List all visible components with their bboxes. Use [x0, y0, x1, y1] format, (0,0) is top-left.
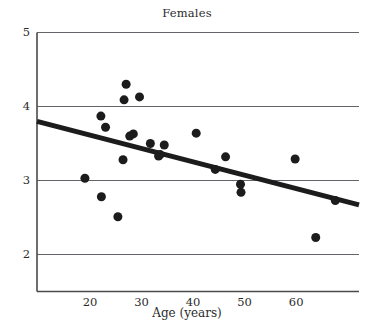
data-point: [192, 129, 201, 138]
data-point: [311, 233, 320, 242]
x-axis-title: Age (years): [0, 306, 374, 320]
data-point: [120, 95, 129, 104]
data-point: [221, 152, 230, 161]
gridlines: [37, 33, 359, 255]
data-point: [160, 140, 169, 149]
data-point: [119, 155, 128, 164]
y-tick-label: 5: [6, 25, 30, 39]
data-point: [113, 212, 122, 221]
data-point: [156, 150, 165, 159]
data-point: [97, 192, 106, 201]
data-point: [96, 112, 105, 121]
y-tick-label: 4: [6, 99, 30, 113]
data-point: [211, 165, 220, 174]
data-point: [237, 188, 246, 197]
data-point: [101, 123, 110, 132]
data-point: [135, 92, 144, 101]
y-tick-label: 3: [6, 173, 30, 187]
data-point: [331, 196, 340, 205]
y-tick-label: 2: [6, 247, 30, 261]
scatter-plot-canvas: [0, 0, 374, 333]
chart-figure: Females 2345 2030405060 Age (years): [0, 0, 374, 333]
data-point: [236, 180, 245, 189]
data-point: [122, 80, 131, 89]
data-point: [146, 139, 155, 148]
data-point: [80, 174, 89, 183]
data-point: [291, 155, 300, 164]
data-points: [80, 80, 339, 242]
data-point: [129, 129, 138, 138]
